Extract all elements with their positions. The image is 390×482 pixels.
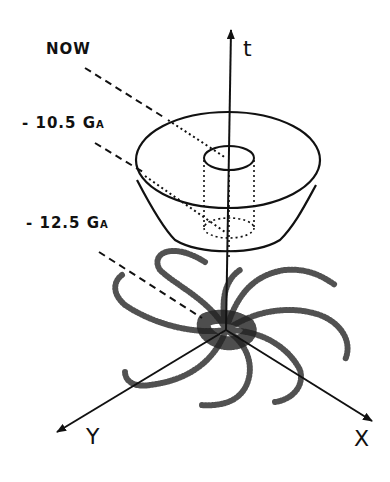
diagram-canvas [0,0,390,482]
label-unit-sub: A [100,219,109,230]
label-unit-sub: A [96,119,105,130]
t-axis-label: t [243,38,252,60]
leader-lines [85,68,226,318]
label-unit: G [83,114,96,132]
x-axis-label: X [354,428,369,450]
label-unit: G [87,214,100,232]
label-value: - 10.5 [22,114,76,132]
y-axis [57,330,226,432]
label-value: - 12.5 [26,214,80,232]
label-now: NOW [46,42,91,57]
label-minus-12-5-ga: - 12.5 GA [26,216,109,231]
label-minus-10-5-ga: - 10.5 GA [22,116,105,131]
y-axis-label: Y [86,426,99,448]
spiral-galaxy [115,251,347,405]
